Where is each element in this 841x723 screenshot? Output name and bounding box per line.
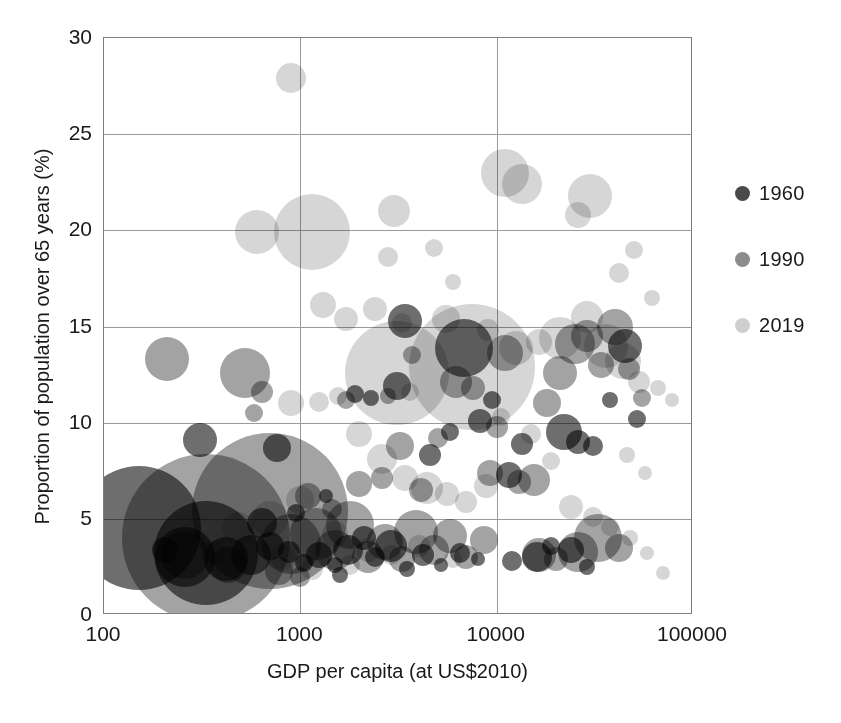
bubble-1960 [247, 508, 277, 538]
chart-legend: 196019902019 [735, 182, 805, 337]
x-tick-label: 100000 [657, 622, 727, 646]
bubble-2019 [334, 307, 358, 331]
bubble-2019 [378, 195, 410, 227]
bubble-1960 [441, 423, 459, 441]
bubble-1960 [152, 537, 178, 563]
gridline-horizontal [104, 134, 691, 135]
bubble-1960 [471, 552, 485, 566]
bubble-1960 [352, 526, 376, 550]
bubble-2019 [346, 421, 372, 447]
bubble-1990 [633, 389, 651, 407]
bubble-1960 [332, 567, 348, 583]
legend-marker-icon [735, 252, 750, 267]
gridline-horizontal [104, 230, 691, 231]
bubble-1990 [518, 464, 550, 496]
bubble-1990 [605, 534, 633, 562]
bubble-2019 [309, 392, 329, 412]
bubble-2019 [502, 164, 542, 204]
bubble-1960 [608, 329, 642, 363]
bubble-2019 [274, 194, 350, 270]
x-tick-label: 10000 [466, 622, 524, 646]
bubble-1990 [403, 346, 421, 364]
bubble-1960 [319, 489, 333, 503]
bubble-1960 [468, 409, 492, 433]
bubble-2019 [445, 274, 461, 290]
bubble-2019 [235, 210, 279, 254]
bubble-2019 [565, 202, 591, 228]
bubble-1960 [579, 559, 595, 575]
bubble-1960 [383, 372, 411, 400]
bubble-2019 [425, 239, 443, 257]
plot-area [103, 37, 692, 614]
bubble-1960 [183, 423, 217, 457]
bubble-1990 [145, 337, 189, 381]
bubble-1960 [496, 462, 522, 488]
bubble-2019 [276, 63, 306, 93]
bubble-2019 [542, 452, 560, 470]
bubble-1960 [435, 319, 493, 377]
bubble-2019 [625, 241, 643, 259]
bubble-2019 [644, 290, 660, 306]
bubble-1960 [450, 543, 470, 563]
bubble-2019 [278, 390, 304, 416]
bubble-1990 [409, 478, 433, 502]
bubble-1990 [470, 526, 498, 554]
bubble-1990 [346, 471, 372, 497]
bubble-1990 [533, 389, 561, 417]
bubble-2019 [609, 263, 629, 283]
bubble-1960 [419, 444, 441, 466]
bubble-1960 [628, 410, 646, 428]
bubble-2019 [638, 466, 652, 480]
bubble-chart: 051015202530 100100010000100000 GDP per … [0, 0, 841, 723]
y-axis-title: Proportion of population over 65 years (… [31, 37, 54, 637]
bubble-1960 [263, 434, 291, 462]
x-tick-label: 1000 [276, 622, 323, 646]
bubble-1990 [245, 404, 263, 422]
bubble-2019 [455, 491, 477, 513]
bubble-1960 [388, 304, 422, 338]
bubble-1960 [346, 385, 364, 403]
bubble-1960 [375, 530, 407, 562]
legend-label: 1990 [759, 248, 805, 271]
bubble-1960 [363, 390, 379, 406]
legend-item-2019[interactable]: 2019 [735, 314, 805, 337]
bubble-1960 [502, 551, 522, 571]
bubble-2019 [559, 495, 583, 519]
legend-label: 1960 [759, 182, 805, 205]
legend-item-1990[interactable]: 1990 [735, 248, 805, 271]
bubble-1990 [588, 352, 614, 378]
bubble-1990 [251, 381, 273, 403]
bubble-1960 [287, 504, 305, 522]
x-tick-label: 100 [85, 622, 120, 646]
legend-item-1960[interactable]: 1960 [735, 182, 805, 205]
bubble-1960 [583, 436, 603, 456]
bubble-1960 [434, 558, 448, 572]
bubble-2019 [650, 380, 666, 396]
bubble-2019 [378, 247, 398, 267]
bubble-1960 [558, 537, 584, 563]
bubble-2019 [619, 447, 635, 463]
bubble-2019 [656, 566, 670, 580]
bubble-1990 [386, 432, 414, 460]
bubble-1960 [412, 544, 434, 566]
legend-marker-icon [735, 186, 750, 201]
bubble-1990 [461, 376, 485, 400]
bubble-1960 [483, 391, 501, 409]
bubble-1960 [399, 561, 415, 577]
bubble-2019 [665, 393, 679, 407]
bubble-2019 [363, 297, 387, 321]
x-axis-title: GDP per capita (at US$2010) [103, 660, 692, 683]
bubble-1990 [371, 467, 393, 489]
bubble-1960 [602, 392, 618, 408]
bubble-2019 [310, 292, 336, 318]
bubble-1960 [511, 433, 533, 455]
bubble-2019 [640, 546, 654, 560]
legend-label: 2019 [759, 314, 805, 337]
legend-marker-icon [735, 318, 750, 333]
